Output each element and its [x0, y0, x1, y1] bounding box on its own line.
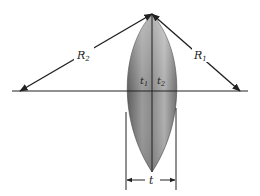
thickness-label: t [149, 174, 154, 187]
lens-diagram: R2 R1 t1 t2 t [0, 0, 260, 196]
